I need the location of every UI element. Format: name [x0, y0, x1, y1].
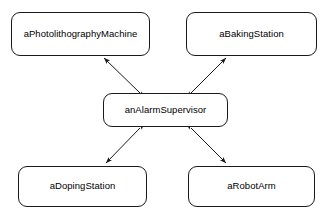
- node-aphotolithographymachine[interactable]: aPhotolithographyMachine: [11, 12, 150, 56]
- edge-supervisor-doping: [106, 128, 140, 163]
- node-label-abakingstation: aBakingStation: [219, 29, 284, 39]
- node-label-analarmsupervisor: anAlarmSupervisor: [125, 105, 207, 115]
- node-abakingstation[interactable]: aBakingStation: [186, 12, 317, 56]
- node-label-arobotarm: aRobotArm: [227, 181, 276, 191]
- node-analarmsupervisor[interactable]: anAlarmSupervisor: [103, 93, 228, 127]
- edge-supervisor-photolithography: [104, 58, 140, 93]
- node-label-aphotolithographymachine: aPhotolithographyMachine: [24, 29, 138, 39]
- node-arobotarm[interactable]: aRobotArm: [188, 166, 315, 207]
- node-label-adopingstation: aDopingStation: [50, 181, 116, 191]
- edge-supervisor-baking: [191, 58, 226, 93]
- edge-supervisor-robot: [191, 128, 226, 163]
- object-diagram-canvas: aPhotolithographyMachine aBakingStation …: [0, 0, 331, 218]
- node-adopingstation[interactable]: aDopingStation: [18, 166, 147, 207]
